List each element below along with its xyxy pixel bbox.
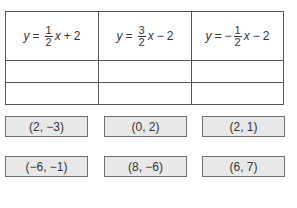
header-cell-equation-3: y = − 1 2 x − 2 xyxy=(192,12,283,60)
eq-lhs: y xyxy=(117,29,123,43)
numerator: 1 xyxy=(234,25,242,37)
equation-2: y = 3 2 x − 2 xyxy=(117,25,174,48)
header-cell-equation-2: y = 3 2 x − 2 xyxy=(99,12,192,60)
eq-op: − xyxy=(157,29,164,43)
point-tile[interactable]: (2, 1) xyxy=(202,116,285,137)
point-tile[interactable]: (0, 2) xyxy=(104,116,187,137)
numerator: 1 xyxy=(45,25,53,37)
eq-const: 2 xyxy=(167,29,174,43)
drop-target-r2-c3[interactable] xyxy=(192,83,283,104)
eq-neg: − xyxy=(225,29,232,43)
drop-target-r1-c2[interactable] xyxy=(99,61,192,82)
eq-lhs: y xyxy=(24,29,30,43)
equation-1: y = 1 2 x + 2 xyxy=(24,25,81,48)
denominator: 2 xyxy=(235,37,241,48)
answer-row-2 xyxy=(6,83,283,104)
numerator: 3 xyxy=(138,25,146,37)
eq-const: 2 xyxy=(74,29,81,43)
eq-const: 2 xyxy=(263,29,270,43)
drop-target-r1-c1[interactable] xyxy=(6,61,99,82)
denominator: 2 xyxy=(139,37,145,48)
eq-sign: = xyxy=(126,29,133,43)
fraction: 1 2 xyxy=(234,25,242,48)
eq-var: x xyxy=(148,29,154,43)
eq-var: x xyxy=(244,29,250,43)
equation-3: y = − 1 2 x − 2 xyxy=(206,25,270,48)
eq-lhs: y xyxy=(206,29,212,43)
header-cell-equation-1: y = 1 2 x + 2 xyxy=(6,12,99,60)
point-tile[interactable]: (2, −3) xyxy=(5,116,88,137)
answer-row-1 xyxy=(6,61,283,83)
fraction: 1 2 xyxy=(45,25,53,48)
equations-table: y = 1 2 x + 2 y = 3 2 x xyxy=(5,11,284,105)
eq-op: + xyxy=(64,29,71,43)
drop-target-r1-c3[interactable] xyxy=(192,61,283,82)
point-tile[interactable]: (−6, −1) xyxy=(5,156,88,177)
eq-var: x xyxy=(55,29,61,43)
fraction: 3 2 xyxy=(138,25,146,48)
denominator: 2 xyxy=(46,37,52,48)
point-tile[interactable]: (8, −6) xyxy=(104,156,187,177)
point-tile[interactable]: (6, 7) xyxy=(202,156,285,177)
eq-sign: = xyxy=(33,29,40,43)
header-row: y = 1 2 x + 2 y = 3 2 x xyxy=(6,12,283,61)
eq-op: − xyxy=(253,29,260,43)
drop-target-r2-c1[interactable] xyxy=(6,83,99,104)
drop-target-r2-c2[interactable] xyxy=(99,83,192,104)
eq-sign: = xyxy=(215,29,222,43)
